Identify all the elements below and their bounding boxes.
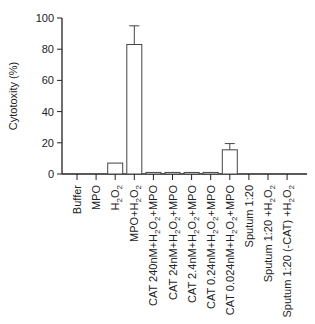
bar: [222, 150, 237, 174]
y-tick-label: 40: [42, 106, 54, 118]
y-tick-label: 20: [42, 137, 54, 149]
x-tick-label: Sputum 1:20 +H2O2: [262, 184, 277, 282]
bar-chart: 020406080100Cytotoxity (%)BufferMPOH2O2M…: [0, 0, 315, 324]
x-tick-label: CAT 0.24nM+H2O2+MPO: [205, 185, 220, 310]
x-tick-label: CAT 2.4nM+H2O2+MPO: [186, 185, 201, 303]
bar: [146, 172, 161, 174]
x-tick-label: CAT 0.024nM+H2O2+MPO: [224, 185, 239, 316]
x-tick-label: Sputum 1:20 (-CAT) +H2O2: [281, 184, 296, 317]
y-axis-label: Cytotoxity (%): [7, 62, 19, 130]
y-tick-label: 80: [42, 43, 54, 55]
x-tick-label: CAT 240nM+H2O2+MPO: [147, 185, 162, 306]
x-tick-label: H2O2: [109, 184, 124, 210]
x-tick-label: MPO: [90, 185, 102, 211]
bar: [184, 172, 199, 174]
bar: [165, 172, 180, 174]
y-tick-label: 100: [36, 12, 54, 24]
x-tick-label: CAT 24nM+H2O2+MPO: [167, 185, 182, 300]
x-tick-label: Sputum 1:20: [243, 185, 255, 247]
bar: [203, 172, 218, 174]
x-tick-label: Buffer: [71, 185, 83, 214]
y-tick-label: 0: [48, 168, 54, 180]
bar: [108, 163, 123, 174]
y-tick-label: 60: [42, 74, 54, 86]
x-tick-label: MPO+H2O2: [128, 184, 143, 241]
bar: [127, 45, 142, 174]
